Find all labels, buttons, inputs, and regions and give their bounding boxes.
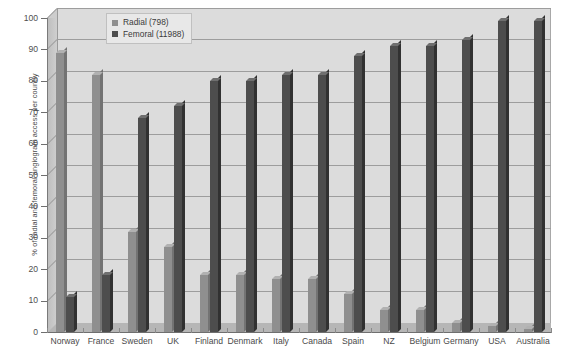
x-tick-mark	[443, 328, 444, 333]
legend-item-femoral: Femoral (11988)	[112, 29, 184, 41]
gridline	[57, 134, 551, 135]
y-tick-label: 80	[4, 75, 38, 85]
x-tick-label-usa: USA	[488, 336, 506, 346]
x-tick-label-italy: Italy	[273, 336, 289, 346]
y-tick-label: 0	[4, 327, 38, 337]
x-tick-mark	[551, 328, 552, 333]
legend-label-femoral: Femoral (11988)	[123, 29, 184, 41]
x-tick-label-australia: Australia	[516, 336, 549, 346]
x-tick-label-denmark: Denmark	[228, 336, 263, 346]
x-tick-label-germany: Germany	[443, 336, 478, 346]
gridline	[57, 196, 551, 197]
y-tick-label: 40	[4, 201, 38, 211]
y-axis-back-line	[57, 8, 58, 323]
legend-item-radial: Radial (798)	[112, 17, 184, 29]
gridline	[57, 228, 551, 229]
x-tick-mark	[155, 328, 156, 333]
x-tick-mark	[299, 328, 300, 333]
x-tick-mark	[407, 328, 408, 333]
x-tick-label-norway: Norway	[50, 336, 79, 346]
gridline	[57, 71, 551, 72]
x-tick-mark	[227, 328, 228, 333]
x-tick-mark	[119, 328, 120, 333]
gridline	[57, 259, 551, 260]
x-tick-label-spain: Spain	[342, 336, 364, 346]
y-tick-label: 100	[4, 13, 38, 23]
x-tick-label-canada: Canada	[302, 336, 332, 346]
y-tick-label: 70	[4, 107, 38, 117]
x-tick-mark	[263, 328, 264, 333]
gridline	[57, 102, 551, 103]
legend-label-radial: Radial (798)	[123, 17, 169, 29]
y-tick-label: 30	[4, 232, 38, 242]
gridline	[57, 291, 551, 292]
legend-swatch-femoral	[112, 31, 118, 37]
x-tick-mark	[371, 328, 372, 333]
x-tick-label-finland: Finland	[195, 336, 223, 346]
gridline	[57, 165, 551, 166]
x-tick-label-belgium: Belgium	[409, 336, 440, 346]
y-tick-label: 50	[4, 170, 38, 180]
x-tick-label-uk: UK	[167, 336, 179, 346]
bar-chart: % of radial and femoral angiogram access…	[0, 0, 570, 356]
y-tick-label: 60	[4, 138, 38, 148]
x-tick-label-sweden: Sweden	[121, 336, 152, 346]
y-tick-label: 20	[4, 264, 38, 274]
x-tick-label-france: France	[88, 336, 115, 346]
chart-legend: Radial (798) Femoral (11988)	[106, 13, 192, 44]
gridline	[57, 8, 551, 9]
legend-swatch-radial	[112, 20, 118, 26]
y-tick-label: 90	[4, 44, 38, 54]
x-tick-mark	[515, 328, 516, 333]
x-tick-mark	[83, 328, 84, 333]
x-tick-mark	[335, 328, 336, 333]
y-axis-line	[47, 18, 48, 333]
x-tick-label-nz: NZ	[383, 336, 394, 346]
x-tick-mark	[47, 328, 48, 333]
plot-left-wall	[47, 18, 57, 333]
x-tick-mark	[191, 328, 192, 333]
y-tick-label: 10	[4, 295, 38, 305]
x-tick-mark	[479, 328, 480, 333]
